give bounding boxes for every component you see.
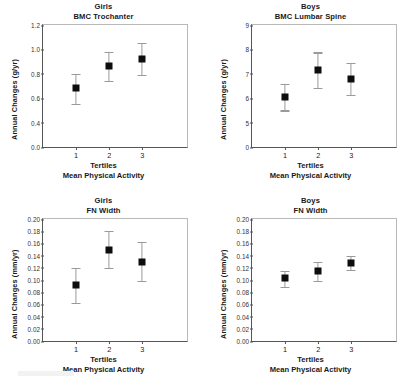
- panel-boys-bmc-lumbar-spine: Boys BMC Lumbar Spine Annual Changes (g/…: [207, 0, 414, 194]
- y-axis-tick-label: 0.06: [28, 301, 40, 308]
- data-point-marker: [73, 85, 80, 92]
- plot-area: 0.000.020.040.060.080.100.120.140.160.18…: [42, 218, 188, 342]
- y-axis-tick-label: 0.20: [237, 216, 249, 223]
- x-axis-tick-label: 2: [316, 345, 320, 354]
- scan-artifact: [18, 371, 74, 376]
- y-axis-tick-label: 0.16: [28, 240, 40, 247]
- y-axis-tick-label: 0.02: [28, 325, 40, 332]
- error-bar-cap-upper: [105, 52, 114, 53]
- x-axis-label-secondary: Mean Physical Activity: [207, 171, 414, 181]
- data-point-group: [345, 25, 357, 147]
- error-bar-cap-upper: [138, 242, 147, 243]
- error-bar-cap-lower: [72, 303, 81, 304]
- error-bar-cap-lower: [314, 281, 323, 282]
- data-point-group: [70, 25, 82, 147]
- data-point-group: [312, 25, 324, 147]
- plot-area: 0.000.020.040.060.080.100.120.140.160.18…: [251, 218, 397, 342]
- data-point-marker: [348, 75, 355, 82]
- data-series: [43, 25, 187, 147]
- y-axis-tick-label: 0.16: [237, 240, 249, 247]
- data-point-marker: [139, 56, 146, 63]
- x-axis-label-secondary: Mean Physical Activity: [207, 365, 414, 375]
- y-axis-tick-label: 0.02: [237, 325, 249, 332]
- y-axis-tick-label: 0.06: [237, 301, 249, 308]
- data-point-marker: [282, 93, 289, 100]
- y-axis-tick-label: 0.12: [28, 264, 40, 271]
- x-axis-tick-label: 2: [316, 151, 320, 160]
- error-bar-cap-lower: [314, 88, 323, 89]
- y-axis-tick-label: 0.0: [31, 144, 40, 151]
- data-point-marker: [315, 67, 322, 74]
- data-point-group: [136, 25, 148, 147]
- data-point-marker: [73, 282, 80, 289]
- data-point-group: [70, 219, 82, 341]
- y-axis-tick-label: 7: [245, 70, 249, 77]
- data-point-group: [312, 219, 324, 341]
- y-axis-tick-label: 0.6: [31, 95, 40, 102]
- y-axis-label: Annual Changes (mm/yr): [10, 249, 19, 339]
- plot-area: 0.00.40.60.81.01.2123: [42, 24, 188, 148]
- panel-title-block: Girls BMC Trochanter: [0, 2, 207, 21]
- y-axis-tick-label: 0.20: [28, 216, 40, 223]
- y-axis-tick-label: 8: [245, 46, 249, 53]
- y-axis-tick-label: 6: [245, 95, 249, 102]
- error-bar-cap-upper: [347, 256, 356, 257]
- y-axis-tick-label: 0.08: [28, 289, 40, 296]
- x-axis-label-primary: Tertiles: [0, 355, 207, 365]
- y-axis-tick-label: 0.08: [237, 289, 249, 296]
- error-bar-cap-upper: [314, 262, 323, 263]
- x-axis-tick-label: 1: [74, 345, 78, 354]
- data-point-marker: [106, 246, 113, 253]
- error-bar-cap-lower: [138, 281, 147, 282]
- error-bar-cap-upper: [281, 271, 290, 272]
- panel-subtitle: FN Width: [207, 206, 414, 216]
- error-bar-cap-upper: [347, 63, 356, 64]
- data-point-group: [103, 25, 115, 147]
- panel-title-block: Boys FN Width: [207, 196, 414, 215]
- panel-title: Girls: [0, 196, 207, 206]
- x-axis-tick-label: 2: [107, 151, 111, 160]
- error-bar-cap-lower: [105, 81, 114, 82]
- error-bar-cap-lower: [347, 95, 356, 96]
- panel-subtitle: BMC Lumbar Spine: [207, 12, 414, 22]
- y-axis-label: Annual Changes (g/yr): [219, 59, 228, 140]
- y-axis-tick-label: 0.12: [237, 264, 249, 271]
- y-axis-tick-label: 0: [245, 144, 249, 151]
- y-axis-tick-label: 0.04: [237, 313, 249, 320]
- figure-panel-grid: Girls BMC Trochanter Annual Changes (g/y…: [0, 0, 414, 387]
- x-axis-tick-label: 1: [283, 345, 287, 354]
- panel-title: Boys: [207, 196, 414, 206]
- x-axis-label-primary: Tertiles: [207, 161, 414, 171]
- data-point-group: [136, 219, 148, 341]
- y-axis-tick-label: 0.14: [237, 252, 249, 259]
- panel-girls-bmc-trochanter: Girls BMC Trochanter Annual Changes (g/y…: [0, 0, 207, 194]
- panel-boys-fn-width: Boys FN Width Annual Changes (mm/yr) 0.0…: [207, 194, 414, 387]
- x-axis-tick-label: 1: [283, 151, 287, 160]
- y-axis-tick-label: 0.00: [237, 338, 249, 345]
- data-series: [252, 219, 396, 341]
- error-bar-cap-upper: [138, 43, 147, 44]
- plot-area: 056789123: [251, 24, 397, 148]
- y-axis-tick-label: 0.18: [28, 228, 40, 235]
- y-axis-tick-label: 1.2: [31, 22, 40, 29]
- data-point-marker: [282, 275, 289, 282]
- y-axis-tick-label: 0.4: [31, 119, 40, 126]
- error-bar-cap-lower: [347, 270, 356, 271]
- error-bar-cap-lower: [281, 110, 290, 111]
- error-bar-cap-upper: [72, 268, 81, 269]
- x-axis-tick-label: 3: [140, 151, 144, 160]
- x-axis-label-secondary: Mean Physical Activity: [0, 171, 207, 181]
- y-axis-tick-label: 0.8: [31, 70, 40, 77]
- error-bar-cap-upper: [314, 52, 323, 53]
- error-bar-cap-lower: [72, 104, 81, 105]
- y-axis-tick-label: 0.14: [28, 252, 40, 259]
- error-bar-cap-upper: [105, 231, 114, 232]
- y-axis-tick-label: 9: [245, 22, 249, 29]
- data-point-group: [279, 25, 291, 147]
- y-axis-tick-label: 0.00: [28, 338, 40, 345]
- y-axis-tick-label: 0.04: [28, 313, 40, 320]
- y-axis-label: Annual Changes (g/yr): [10, 59, 19, 140]
- x-axis-tick-label: 3: [140, 345, 144, 354]
- data-point-group: [103, 219, 115, 341]
- x-axis-tick-label: 1: [74, 151, 78, 160]
